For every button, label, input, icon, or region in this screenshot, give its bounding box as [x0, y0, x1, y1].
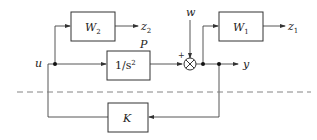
block-plant: 1/s2 [107, 51, 150, 80]
block-w1: W1 [219, 12, 263, 41]
signal-label-u: u [35, 57, 42, 70]
wire-k-to-u [48, 64, 108, 117]
signal-label-z2: z2 [140, 20, 151, 35]
summing-junction [184, 58, 196, 70]
wire-to-w1 [203, 26, 218, 64]
wire-y-to-k [149, 64, 219, 117]
sum-sign-plus: + [178, 51, 185, 60]
block-w2: W2 [71, 12, 115, 41]
svg-text:K: K [122, 112, 132, 125]
junction-dot-y [217, 62, 221, 66]
junction-dot-u [53, 62, 57, 66]
signal-label-z1: z1 [287, 20, 298, 35]
wire-u-to-w2 [55, 26, 70, 64]
signal-label-w: w [186, 6, 196, 19]
block-diagram: + W2 1/s2 P W1 K u w y z2 z1 [0, 0, 317, 140]
junction-dot-w1 [201, 62, 205, 66]
signal-label-y: y [242, 58, 250, 71]
plant-name-label: P [139, 38, 148, 51]
block-controller-k: K [108, 103, 148, 132]
